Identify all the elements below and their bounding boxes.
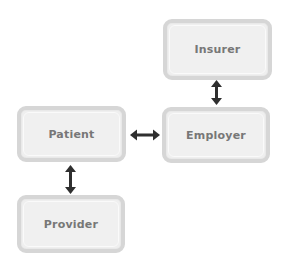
edge-patient-employer-arrow-icon (130, 130, 160, 141)
edges-layer (0, 0, 284, 272)
edge-patient-provider-arrow-icon (65, 165, 76, 194)
edge-insurer-employer-arrow-icon (211, 80, 222, 105)
